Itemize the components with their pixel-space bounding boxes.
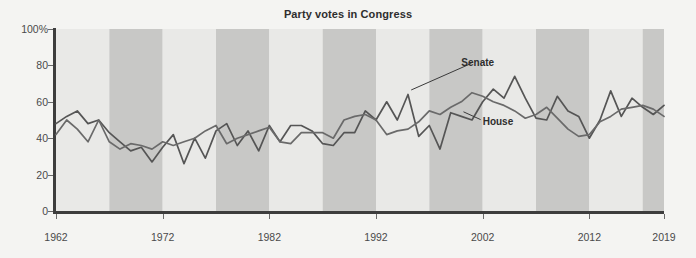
x-tick-mark <box>269 214 270 219</box>
background-band <box>589 29 642 211</box>
x-tick-mark <box>589 214 590 219</box>
y-tick-label: 20 <box>8 169 48 181</box>
y-axis-line <box>53 28 56 214</box>
x-tick-label: 2012 <box>578 231 601 243</box>
x-tick-label: 2019 <box>652 231 675 243</box>
y-tick-label: 40 <box>8 132 48 144</box>
annotation-house: House <box>483 116 514 127</box>
x-tick-mark <box>483 214 484 219</box>
y-tick-mark <box>48 175 53 176</box>
x-tick-label: 1992 <box>364 231 387 243</box>
chart-container: Party votes in Congress 020406080100% 19… <box>0 0 696 258</box>
chart-plot-area <box>0 0 696 258</box>
x-tick-mark <box>56 214 57 219</box>
y-tick-mark <box>48 102 53 103</box>
y-tick-mark <box>48 65 53 66</box>
y-tick-mark <box>48 211 53 212</box>
y-tick-mark <box>48 29 53 30</box>
y-tick-mark <box>48 138 53 139</box>
y-tick-label: 0 <box>8 205 48 217</box>
background-band <box>109 29 162 211</box>
x-tick-mark <box>664 214 665 219</box>
x-tick-label: 2002 <box>471 231 494 243</box>
background-band <box>323 29 376 211</box>
annotation-senate: Senate <box>461 57 494 68</box>
y-tick-label: 60 <box>8 96 48 108</box>
background-band <box>56 29 109 211</box>
chart-title: Party votes in Congress <box>0 8 696 20</box>
x-axis-line <box>53 211 664 214</box>
background-band <box>216 29 269 211</box>
y-tick-label: 100% <box>8 23 48 35</box>
x-tick-label: 1972 <box>151 231 174 243</box>
x-tick-label: 1962 <box>44 231 67 243</box>
y-tick-label: 80 <box>8 59 48 71</box>
x-tick-mark <box>376 214 377 219</box>
background-band <box>643 29 664 211</box>
background-band <box>269 29 322 211</box>
background-band <box>163 29 216 211</box>
background-band <box>429 29 482 211</box>
x-tick-label: 1982 <box>258 231 281 243</box>
x-tick-mark <box>163 214 164 219</box>
